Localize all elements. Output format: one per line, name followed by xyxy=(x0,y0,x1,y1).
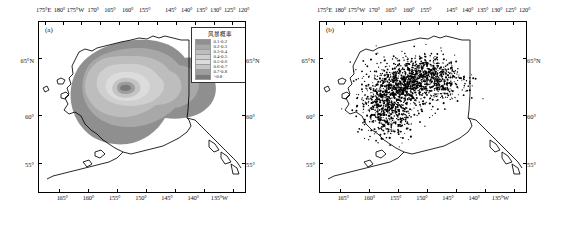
panel-a: 175°E180°175°W170°165°160°155°145°140°13… xyxy=(0,0,281,229)
panel-a-left-axis-labels: 65°N60°55° xyxy=(0,0,36,229)
legend-item: >0.8 xyxy=(195,74,245,79)
tick-top xyxy=(119,22,120,25)
panel-a-top-axis-labels: 175°E180°175°W170°165°160°155°145°140°13… xyxy=(0,6,281,18)
tick-top xyxy=(438,22,439,25)
tick-top xyxy=(513,22,514,25)
axis-tick-label: 150° xyxy=(135,194,146,201)
axis-tick-label: 55° xyxy=(306,160,315,167)
tick-top xyxy=(214,22,215,25)
panel-b-map-graphic xyxy=(320,22,526,192)
axis-tick-label: 155° xyxy=(420,6,431,13)
tick-top xyxy=(381,22,382,25)
tick-top xyxy=(176,22,177,25)
panel-b-right-axis-labels: 65°N60°55° xyxy=(525,0,561,229)
legend-item-label: >0.8 xyxy=(214,74,223,79)
panel-a-label: (a) xyxy=(45,26,53,34)
axis-tick-label: 160° xyxy=(83,194,94,201)
panel-b-top-axis-labels: 175°E180°175°W170°165°160°155°145°140°13… xyxy=(281,6,562,18)
axis-tick-label: 145° xyxy=(161,194,172,201)
tick-bottom xyxy=(514,189,515,192)
tick-bottom xyxy=(369,189,370,192)
tick-top xyxy=(400,22,401,25)
axis-tick-label: 55° xyxy=(527,160,536,167)
tick-left xyxy=(39,163,42,164)
axis-tick-label: 175°E xyxy=(36,6,51,13)
tick-top xyxy=(195,22,196,25)
tick-top xyxy=(138,22,139,25)
axis-tick-label: 145° xyxy=(446,6,457,13)
tick-top xyxy=(232,22,233,25)
axis-tick-label: 65°N xyxy=(301,57,315,64)
axis-tick-label: 160° xyxy=(122,6,133,13)
tick-top xyxy=(457,22,458,25)
axis-tick-label: 60° xyxy=(25,113,34,120)
tick-top xyxy=(344,22,345,25)
axis-tick-label: 60° xyxy=(246,113,255,120)
axis-tick-label: 170° xyxy=(368,6,379,13)
axis-tick-label: 125° xyxy=(505,6,516,13)
axis-tick-label: 65°N xyxy=(527,57,541,64)
tick-top xyxy=(419,22,420,25)
tick-top xyxy=(157,22,158,25)
axis-tick-label: 140° xyxy=(188,194,199,201)
probability-legend: 风暴概率 0.1-0.20.2-0.30.3-0.40.4-0.50.5-0.6… xyxy=(191,27,246,83)
scatter-points xyxy=(341,44,484,148)
axis-tick-label: 165° xyxy=(385,6,396,13)
axis-tick-label: 65°N xyxy=(246,57,260,64)
axis-tick-label: 165° xyxy=(104,6,115,13)
axis-tick-label: 125° xyxy=(224,6,235,13)
panel-a-bottom-axis-labels: 165°160°155°150°145°140°135°W xyxy=(0,194,281,206)
axis-tick-label: 135°W xyxy=(211,194,228,201)
tick-right xyxy=(523,58,526,59)
axis-tick-label: 140° xyxy=(462,6,473,13)
axis-tick-label: 135°W xyxy=(492,194,509,201)
panel-b-label: (b) xyxy=(326,26,334,34)
tick-top xyxy=(63,22,64,25)
panel-b-left-axis-labels: 65°N60°55° xyxy=(281,0,317,229)
tick-top xyxy=(326,22,327,25)
axis-tick-label: 155° xyxy=(390,194,401,201)
tick-top xyxy=(495,22,496,25)
axis-tick-label: 135° xyxy=(477,6,488,13)
tick-right xyxy=(242,115,245,116)
axis-tick-label: 140° xyxy=(469,194,480,201)
tick-left xyxy=(39,115,42,116)
axis-tick-label: 60° xyxy=(306,113,315,120)
axis-tick-label: 165° xyxy=(57,194,68,201)
tick-bottom xyxy=(88,189,89,192)
axis-tick-label: 55° xyxy=(25,160,34,167)
axis-tick-label: 170° xyxy=(87,6,98,13)
alaska-coastline xyxy=(324,36,522,179)
axis-tick-label: 175°W xyxy=(348,6,365,13)
axis-tick-label: 160° xyxy=(364,194,375,201)
axis-tick-label: 130° xyxy=(210,6,221,13)
tick-top xyxy=(45,22,46,25)
panel-a-right-axis-labels: 65°N60°55° xyxy=(244,0,280,229)
tick-bottom xyxy=(233,189,234,192)
legend-items: 0.1-0.20.2-0.30.3-0.40.4-0.50.5-0.60.6-0… xyxy=(195,40,245,79)
tick-bottom xyxy=(146,189,147,192)
tick-left xyxy=(320,163,323,164)
axis-tick-label: 180° xyxy=(54,6,65,13)
tick-top xyxy=(362,22,363,25)
tick-left xyxy=(39,58,42,59)
axis-tick-label: 130° xyxy=(491,6,502,13)
axis-tick-label: 175°E xyxy=(317,6,332,13)
axis-tick-label: 135° xyxy=(196,6,207,13)
axis-tick-label: 145° xyxy=(442,194,453,201)
axis-tick-label: 60° xyxy=(527,113,536,120)
axis-tick-label: 155° xyxy=(109,194,120,201)
axis-tick-label: 150° xyxy=(416,194,427,201)
tick-bottom xyxy=(59,189,60,192)
panel-b-plot-frame: (b) xyxy=(319,21,527,193)
tick-right xyxy=(242,163,245,164)
tick-bottom xyxy=(117,189,118,192)
tick-right xyxy=(523,163,526,164)
panel-b-bottom-axis-labels: 165°160°155°150°145°140°135°W xyxy=(281,194,562,206)
contour-band-above-0.8 xyxy=(120,85,131,91)
tick-bottom xyxy=(175,189,176,192)
tick-left xyxy=(320,58,323,59)
tick-bottom xyxy=(427,189,428,192)
panel-b: 175°E180°175°W170°165°160°155°145°140°13… xyxy=(281,0,562,229)
tick-bottom xyxy=(340,189,341,192)
